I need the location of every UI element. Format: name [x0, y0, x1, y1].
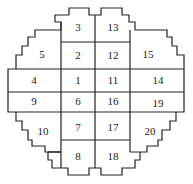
cell-label-20: 20	[145, 125, 157, 137]
cell-label-12: 12	[108, 49, 119, 61]
cell-label-13: 13	[108, 21, 120, 33]
cell-label-8: 8	[75, 150, 81, 162]
cell-label-14: 14	[153, 74, 165, 86]
cell-label-11: 11	[108, 74, 119, 86]
cell-label-2: 2	[75, 49, 81, 61]
cell-label-9: 9	[31, 95, 37, 107]
cell-label-5: 5	[39, 48, 45, 60]
cell-label-6: 6	[75, 95, 81, 107]
outer-boundary	[8, 8, 184, 175]
cell-label-17: 17	[108, 121, 120, 133]
core-grid-diagram: 1234567891011121314151617181920	[0, 0, 193, 184]
cell-label-16: 16	[108, 95, 120, 107]
cell-label-7: 7	[75, 121, 81, 133]
cell-label-18: 18	[108, 150, 120, 162]
cell-label-3: 3	[75, 21, 81, 33]
cell-label-4: 4	[31, 74, 37, 86]
cell-label-19: 19	[153, 97, 165, 109]
cell-label-10: 10	[38, 125, 50, 137]
cell-label-1: 1	[75, 74, 81, 86]
cell-label-15: 15	[143, 48, 155, 60]
